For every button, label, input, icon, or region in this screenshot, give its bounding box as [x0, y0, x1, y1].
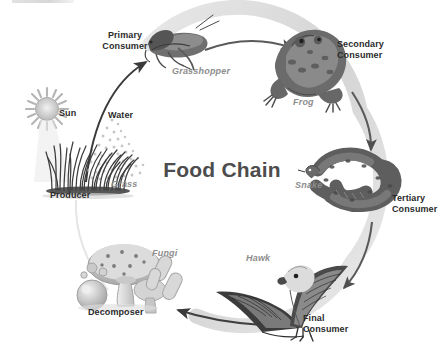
label-decomposer: Decomposer [88, 307, 148, 318]
label-frog: Frog [293, 97, 327, 108]
label-primary-consumer: Primary Consumer [96, 30, 154, 51]
label-tertiary-consumer: Tertiary Consumer [392, 193, 446, 214]
label-snake: Snake [295, 180, 333, 191]
label-sun: Sun [59, 108, 89, 119]
label-grasshopper: Grasshopper [172, 66, 246, 77]
grasshopper-art [145, 15, 219, 70]
label-producer: Producer [50, 190, 106, 201]
food-chain-diagram: Food Chain Primary Consumer Grasshopper … [0, 0, 447, 350]
sun-icon [26, 88, 70, 182]
label-grass: Grass [111, 179, 153, 190]
label-secondary-consumer: Secondary Consumer [337, 39, 403, 60]
page-title: Food Chain [152, 158, 292, 182]
label-fungi: Fungi [152, 248, 192, 259]
label-final-consumer: Final Consumer [303, 313, 363, 334]
label-hawk: Hawk [246, 253, 284, 264]
label-water: Water [108, 110, 148, 121]
